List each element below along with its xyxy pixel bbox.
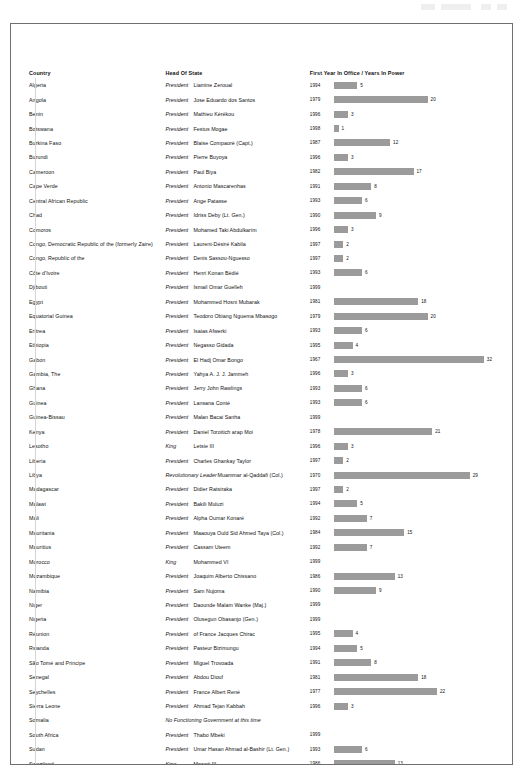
years-in-power-value: 21: [435, 429, 440, 434]
table-row: Equatorial GuineaPresidentTeodoro Obiang…: [11, 309, 512, 323]
first-year-in-office: 1993: [310, 328, 334, 333]
bar-area: 21: [334, 428, 512, 436]
head-of-state-title: President: [165, 284, 193, 290]
head-of-state-name: Pasteur Bizimungu: [193, 645, 238, 651]
head-of-state-cell: PresidentHenri Konan Bédié: [165, 270, 309, 276]
head-of-state-title: President: [165, 746, 193, 752]
table-row: MalawiPresidentBakili Muluzi19945: [11, 497, 512, 511]
head-of-state-cell: PresidentBlaise Compaoré (Capt.): [165, 140, 309, 146]
head-of-state-title: President: [165, 674, 193, 680]
table-row: LibyaRevolutionary LeaderMuammar al-Qadd…: [11, 468, 512, 482]
table-row: MozambiquePresidentJoaquim Alberto Chiss…: [11, 569, 512, 583]
years-in-power-chart-cell: 19963: [310, 370, 512, 378]
head-of-state-cell: PresidentIsmail Omar Guelleh: [165, 284, 309, 290]
table-row: AngolaPresidentJose Eduardo dos Santos19…: [11, 92, 512, 106]
table-row: Cape VerdePresidentAntonio Mascarenhas19…: [11, 179, 512, 193]
head-of-state-name: Sam Nujoma: [193, 588, 224, 594]
years-in-power-value: 5: [360, 646, 363, 651]
head-of-state-name: Paul Biya: [193, 169, 216, 175]
years-in-power-chart-cell: 198118: [310, 298, 512, 306]
years-in-power-value: 4: [356, 343, 359, 348]
years-in-power-value: 2: [346, 487, 349, 492]
years-in-power-chart-cell: 197821: [310, 428, 512, 436]
head-of-state-title: President: [165, 111, 193, 117]
table-header-row: Country Head Of State First Year In Offi…: [11, 24, 512, 78]
head-of-state-cell: KingMohammed VI: [165, 559, 309, 565]
bar-area: 12: [334, 139, 512, 147]
years-in-power-chart-cell: 197920: [310, 96, 512, 104]
years-in-power-bar: [334, 241, 343, 248]
years-in-power-bar: [334, 645, 357, 652]
first-year-in-office: 1986: [310, 574, 334, 579]
years-in-power-value: 3: [351, 227, 354, 232]
years-in-power-chart-cell: 19936: [310, 384, 512, 392]
table-row: CameroonPresidentPaul Biya198217: [11, 165, 512, 179]
head-of-state-name: Antonio Mascarenhas: [193, 183, 245, 189]
years-in-power-bar: [334, 760, 395, 765]
head-of-state-cell: PresidentPaul Biya: [165, 169, 309, 175]
head-of-state-title: President: [165, 198, 193, 204]
years-in-power-bar: [334, 154, 348, 161]
years-in-power-value: 29: [473, 473, 478, 478]
table-row: EthiopiaPresidentNegasso Gidada19954: [11, 338, 512, 352]
years-in-power-bar: [334, 183, 372, 190]
years-in-power-value: 5: [360, 83, 363, 88]
years-in-power-value: 7: [370, 516, 373, 521]
first-year-in-office: 1992: [310, 516, 334, 521]
head-of-state-cell: PresidentDidier Ratsiraka: [165, 486, 309, 492]
head-of-state-cell: PresidentPasteur Bizimungu: [165, 645, 309, 651]
first-year-in-office: 1996: [310, 112, 334, 117]
head-of-state-title: President: [165, 255, 193, 261]
years-in-power-bar: [334, 544, 367, 551]
years-in-power-value: 13: [398, 574, 403, 579]
bar-area: 3: [334, 110, 512, 118]
head-of-state-title: President: [165, 573, 193, 579]
years-in-power-chart-cell: 198712: [310, 139, 512, 147]
first-year-in-office: 1999: [310, 732, 334, 737]
head-of-state-name: Didier Ratsiraka: [193, 486, 231, 492]
bar-area: 13: [334, 760, 512, 765]
years-in-power-value: 5: [360, 501, 363, 506]
years-in-power-chart-cell: 19909: [310, 211, 512, 219]
bar-area: [334, 283, 512, 291]
years-in-power-chart-cell: 196732: [310, 356, 512, 364]
bar-area: 1: [334, 125, 512, 133]
head-of-state-title: President: [165, 313, 193, 319]
first-year-in-office: 1993: [310, 198, 334, 203]
head-of-state-name: Alpha Oumar Konaré: [193, 515, 244, 521]
head-of-state-cell: PresidentUmar Hasan Ahmad al-Bashir (Lt.…: [165, 746, 309, 752]
years-in-power-chart-cell: 1999: [310, 413, 512, 421]
bar-area: [334, 716, 512, 724]
head-of-state-cell: PresidentIdriss Deby (Lt. Gen.): [165, 212, 309, 218]
head-of-state-title: President: [165, 82, 193, 88]
head-of-state-title: President: [165, 183, 193, 189]
head-of-state-cell: PresidentAhmad Tejan Kabbah: [165, 703, 309, 709]
first-year-in-office: 1979: [310, 314, 334, 319]
bar-area: 2: [334, 254, 512, 262]
bar-area: 3: [334, 226, 512, 234]
head-of-state-name: Teodoro Obiang Nguema Mbasogo: [193, 313, 277, 319]
head-of-state-cell: PresidentMathieu Kérékou: [165, 111, 309, 117]
years-in-power-value: 3: [351, 112, 354, 117]
table-row: Central African RepublicPresidentAnge Pa…: [11, 194, 512, 208]
years-in-power-chart-cell: 19936: [310, 269, 512, 277]
head-of-state-name: Bakili Muluzi: [193, 501, 223, 507]
years-in-power-bar: [334, 226, 348, 233]
head-of-state-name: Jose Eduardo dos Santos: [193, 97, 255, 103]
first-year-in-office: 1999: [310, 617, 334, 622]
years-in-power-bar: [334, 472, 470, 479]
head-of-state-cell: PresidentIsaias Afwerki: [165, 328, 309, 334]
head-of-state-title: President: [165, 689, 193, 695]
first-year-in-office: 1999: [310, 285, 334, 290]
head-of-state-title: President: [165, 270, 193, 276]
head-of-state-title: President: [165, 645, 193, 651]
table-row: KenyaPresidentDaniel Toroitich arap Moi1…: [11, 425, 512, 439]
first-year-in-office: 1999: [310, 559, 334, 564]
years-in-power-value: 1: [342, 126, 345, 131]
table-row: NamibiaPresidentSam Nujoma19909: [11, 583, 512, 597]
head-of-state-name: Lansana Conté: [193, 400, 230, 406]
years-in-power-chart-cell: 19936: [310, 197, 512, 205]
head-of-state-title: President: [165, 703, 193, 709]
table-row: ChadPresidentIdriss Deby (Lt. Gen.)19909: [11, 208, 512, 222]
years-in-power-chart-cell: 197920: [310, 312, 512, 320]
